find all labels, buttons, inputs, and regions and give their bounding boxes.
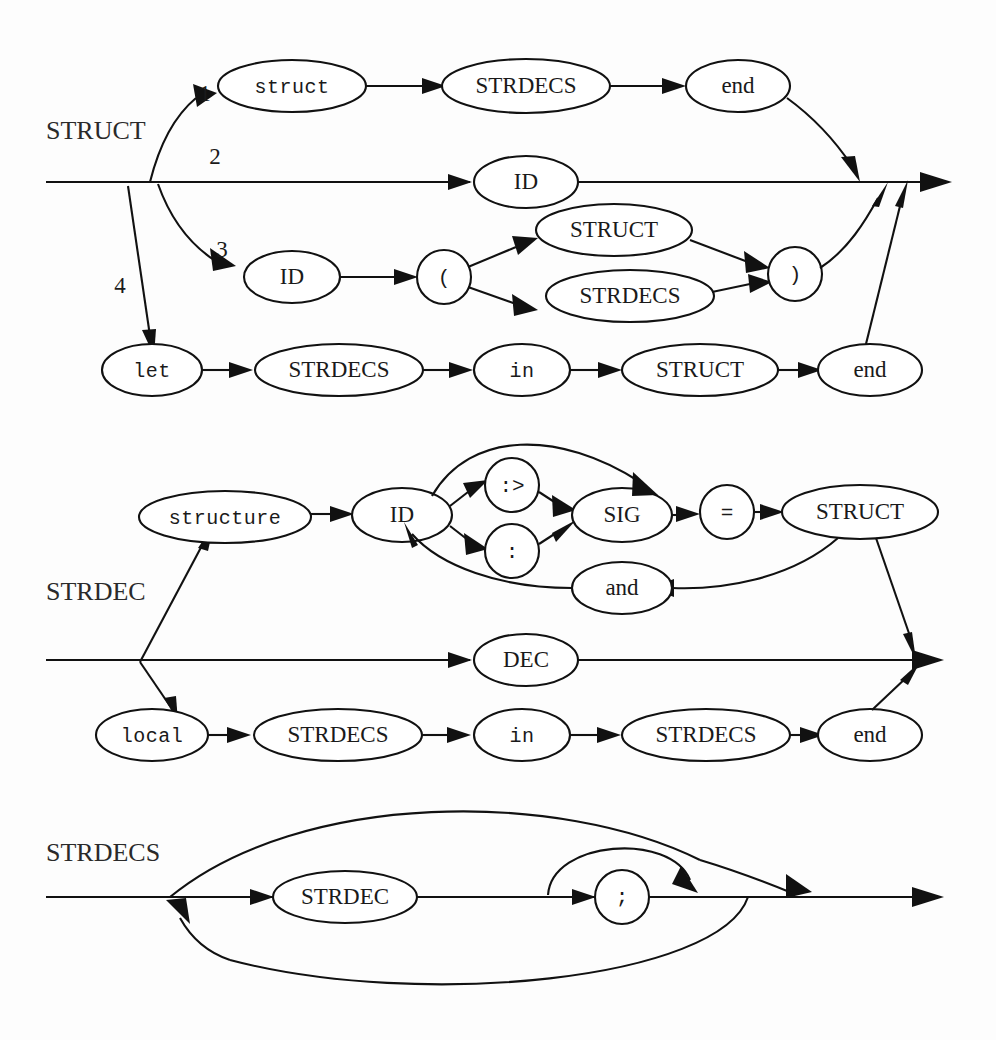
node-strdecs-local-2-label: STRDECS — [656, 722, 757, 747]
node-strdecs-4-label: STRDECS — [289, 357, 390, 382]
node-struct-keyword-label: struct — [254, 76, 329, 99]
branch-3-curve — [158, 184, 214, 260]
arrowhead-in-strdec — [447, 727, 471, 743]
node-end-4-label: end — [853, 357, 887, 382]
diagram-strdecs: STRDECS STRDEC ; — [46, 811, 944, 984]
edge-lparen-to-strdecs — [468, 287, 516, 304]
arrowhead-sig-lower — [552, 520, 576, 542]
arrowhead-end1 — [662, 78, 686, 94]
railroad-diagram-page: STRUCT 1 struct STRDECS end 2 ID — [0, 0, 996, 1040]
node-and-keyword-label: and — [605, 575, 639, 600]
skip-arc-tail — [700, 860, 792, 893]
node-in-keyword-strdec-label: in — [509, 725, 534, 748]
rule-name-struct: STRUCT — [46, 116, 146, 145]
bypass-arc-arrowhead — [632, 472, 658, 496]
node-in-keyword-label: in — [509, 360, 534, 383]
node-strdec-label: STRDEC — [301, 884, 389, 909]
node-semicolon-label: ; — [616, 886, 629, 909]
arrowhead-lparen — [394, 269, 418, 285]
branch-1-return — [787, 98, 852, 166]
node-end-1-label: end — [721, 73, 755, 98]
diagram-struct: STRUCT 1 struct STRDECS end 2 ID — [46, 59, 952, 396]
node-transparent-ascription-label: : — [506, 541, 519, 564]
node-local-keyword-label: local — [121, 725, 184, 748]
edge-strdecs3-to-rparen — [712, 284, 750, 292]
node-dec-label: DEC — [503, 647, 549, 672]
node-strdecs-3-label: STRDECS — [580, 283, 681, 308]
arrowhead-in4 — [449, 362, 473, 378]
branch-number-1: 1 — [199, 81, 211, 106]
node-id-2-label: ID — [514, 169, 538, 194]
rule-name-strdec: STRDEC — [46, 577, 146, 606]
exit-arrowhead-struct — [920, 172, 952, 192]
node-struct-4-label: STRUCT — [656, 357, 744, 382]
branch-1-curve — [150, 98, 196, 182]
branch-number-2: 2 — [209, 144, 221, 169]
diagram-strdec: STRDEC structure ID :> : — [46, 445, 944, 761]
exit-arrowhead-strdecs — [912, 887, 944, 907]
node-structure-keyword-label: structure — [169, 507, 282, 530]
railroad-diagram-canvas: STRUCT 1 struct STRDECS end 2 ID — [0, 0, 996, 1040]
edge-struct-to-rparen — [690, 240, 748, 262]
arrowhead-strdecs4 — [229, 362, 253, 378]
loopback-arc-tail — [180, 918, 230, 960]
branch-3-return-arrowhead — [872, 182, 888, 207]
node-equals-label: = — [721, 502, 734, 525]
node-lparen-label: ( — [438, 267, 451, 290]
arrowhead-struct4 — [598, 362, 622, 378]
branch-number-3: 3 — [216, 237, 228, 262]
node-sig-label: SIG — [603, 502, 640, 527]
branch-1-return-arrowhead — [841, 156, 860, 182]
rule-name-strdecs: STRDECS — [46, 838, 160, 867]
node-id-3-label: ID — [280, 264, 304, 289]
arrowhead-semicolon — [572, 889, 596, 905]
node-id-strdec-label: ID — [390, 502, 414, 527]
node-struct-strdec-label: STRUCT — [816, 499, 904, 524]
branch-4-return-arrowhead — [895, 180, 908, 208]
arrowhead-dec — [448, 652, 472, 668]
arrowhead-end-exit — [900, 662, 920, 685]
arrowhead-struct-nt — [512, 236, 538, 255]
arrowhead-id-strdec — [330, 506, 354, 522]
node-let-keyword-label: let — [133, 360, 171, 383]
branch-number-4: 4 — [114, 273, 126, 298]
arrowhead-equals — [676, 506, 700, 522]
node-opaque-ascription-label: :> — [499, 475, 524, 498]
node-strdecs-1-label: STRDECS — [476, 73, 577, 98]
edge-lparen-to-struct — [468, 247, 516, 267]
node-strdecs-local-1-label: STRDECS — [288, 722, 389, 747]
branch-structure-line — [140, 538, 206, 662]
node-struct-nonterminal-label: STRUCT — [570, 217, 658, 242]
node-end-strdec-label: end — [853, 722, 887, 747]
branch-3-return — [820, 198, 878, 268]
arrowhead-strdecs-3 — [512, 294, 538, 316]
arrowhead-struct-strdec — [760, 504, 784, 520]
edge-struct-to-exit-strdec — [876, 538, 912, 642]
arrowhead-strdecs-local-2 — [597, 727, 621, 743]
skip-arc-arrowhead — [786, 874, 812, 898]
arrowhead-strdec-node — [250, 889, 274, 905]
branch-4-return — [866, 198, 902, 344]
arrowhead-rparen-upper — [744, 251, 770, 273]
arrowhead-strdecs-local — [227, 727, 251, 743]
arrowhead-id2 — [448, 174, 472, 190]
node-rparen-label: ) — [789, 264, 802, 287]
loopback-arrowhead — [166, 898, 190, 924]
edge-id-to-opaque — [450, 492, 468, 506]
edge-struct-to-and — [672, 538, 838, 588]
branch-4-line — [128, 186, 150, 336]
